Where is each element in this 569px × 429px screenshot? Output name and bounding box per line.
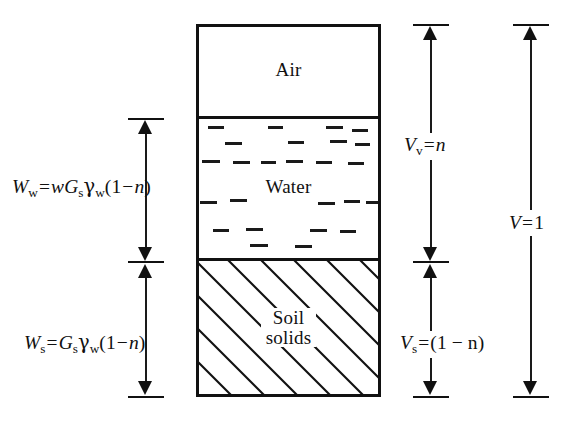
gamma-subscript: w <box>95 185 105 200</box>
left-arrow-up-mid <box>138 264 152 278</box>
right-tick-middle <box>413 261 449 263</box>
total-tick-bottom <box>513 396 549 398</box>
total-arrow-down <box>523 381 537 395</box>
w-italic: w <box>51 176 64 197</box>
zone-soil-label: Soil solids <box>261 308 317 348</box>
G-symbol: G <box>64 176 78 197</box>
left-arrow-down-bottom <box>138 381 152 395</box>
label-total-volume: V=1 <box>506 210 547 236</box>
label-total-volume-value: 1 <box>534 212 544 233</box>
zone-soil-label-line2: solids <box>266 328 312 348</box>
label-void-volume-symbol: V <box>404 134 416 155</box>
right-arrow-up-mid <box>423 264 437 278</box>
equals-sign-3: = <box>423 134 436 155</box>
right-dimline-solids <box>430 268 432 383</box>
open-paren-2: ( <box>99 332 106 353</box>
label-solid-volume: Vs=(1 − n) <box>397 331 487 358</box>
right-arrow-down-bottom <box>423 381 437 395</box>
equals-sign: = <box>38 176 51 197</box>
label-water-weight-subscript: w <box>28 185 38 200</box>
left-arrow-up-top <box>138 120 152 134</box>
phase-diagram-figure: Air Water Soil solids Ww=wGsγw(1−n) Ws=G… <box>0 0 569 429</box>
label-soil-weight-subscript: s <box>40 341 45 356</box>
zone-air-label: Air <box>271 60 307 80</box>
G-symbol-2: G <box>59 332 73 353</box>
equals-sign-4: = <box>417 332 430 353</box>
one-literal-2: 1 <box>106 332 116 353</box>
left-dimline-solids <box>145 268 147 383</box>
gamma-symbol: γ <box>84 175 96 198</box>
right-arrow-down-mid <box>423 247 437 261</box>
zone-water: Water <box>196 116 381 258</box>
label-soil-weight: Ws=Gsγw(1−n) <box>24 331 145 357</box>
minus-sign: − <box>121 176 134 197</box>
gamma-symbol-2: γ <box>78 331 90 354</box>
right-arrow-up-top <box>423 26 437 40</box>
label-total-volume-symbol: V <box>509 212 521 233</box>
minus-sign-2: − <box>116 332 129 353</box>
left-arrow-down-mid <box>138 247 152 261</box>
label-water-weight-symbol: W <box>12 176 28 197</box>
n-symbol: n <box>134 176 144 197</box>
label-void-volume-subscript: v <box>416 143 423 158</box>
label-water-weight: Ww=wGsγw(1−n) <box>12 175 151 201</box>
zone-soil-label-line1: Soil <box>266 308 312 328</box>
gamma-subscript-2: w <box>90 341 100 356</box>
equals-sign-5: = <box>521 212 534 233</box>
zone-air: Air <box>196 24 381 116</box>
left-tick-bottom <box>128 396 164 398</box>
equals-sign-2: = <box>46 332 59 353</box>
left-tick-middle <box>128 261 164 263</box>
close-paren-2: ) <box>139 332 146 353</box>
zone-water-label: Water <box>261 177 317 197</box>
label-solid-volume-symbol: V <box>400 332 412 353</box>
total-arrow-up <box>523 26 537 40</box>
n-symbol-2: n <box>129 332 139 353</box>
right-tick-bottom <box>413 396 449 398</box>
close-paren: ) <box>144 176 151 197</box>
total-dimline <box>530 30 532 383</box>
label-void-volume-value: n <box>436 134 446 155</box>
one-literal: 1 <box>111 176 121 197</box>
label-solid-volume-value: (1 − n) <box>430 332 484 353</box>
label-soil-weight-symbol: W <box>24 332 40 353</box>
label-void-volume: Vv=n <box>401 133 449 160</box>
